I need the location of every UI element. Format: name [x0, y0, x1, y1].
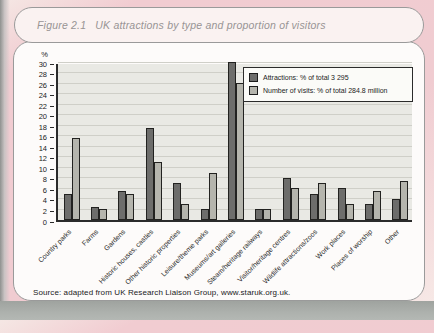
y-tick-mark	[50, 158, 54, 159]
visits-bar-2	[126, 194, 134, 220]
visits-bar-10	[346, 204, 354, 220]
page-bottom-edge	[0, 301, 434, 320]
bar-chart: % 024681012141618202224262830 Country pa…	[14, 42, 426, 302]
visits-bar-12	[400, 181, 408, 221]
y-tick-label: 28	[14, 70, 47, 79]
attractions-bar-4	[173, 183, 181, 220]
y-tick-label: 4	[14, 196, 47, 205]
visits-bar-11	[373, 191, 381, 220]
figure-number: Figure 2.1	[37, 19, 86, 31]
legend-item-attractions: Attractions: % of total 3 295	[249, 71, 407, 84]
visits-swatch-icon	[249, 86, 258, 95]
chart-legend: Attractions: % of total 3 295 Number of …	[243, 67, 413, 102]
figure-box: % 024681012141618202224262830 Country pa…	[13, 41, 425, 301]
y-tick-label: 8	[14, 175, 47, 184]
y-tick-mark	[50, 169, 54, 170]
attractions-bar-1	[91, 207, 99, 220]
y-tick-mark	[50, 148, 54, 149]
y-tick-label: 20	[14, 112, 47, 121]
visits-bar-3	[154, 162, 162, 220]
y-tick-label: 26	[14, 81, 47, 90]
legend-label: Number of visits: % of total 284.8 milli…	[263, 87, 388, 94]
x-axis-labels: Country parksFarmsGardensHistoric houses…	[14, 222, 426, 292]
y-tick-mark	[50, 211, 54, 212]
y-tick-mark	[50, 85, 54, 86]
y-tick-mark	[50, 137, 54, 138]
y-tick-label: 18	[14, 123, 47, 132]
attractions-bar-8	[283, 178, 291, 220]
y-tick-mark	[50, 190, 54, 191]
attractions-bar-10	[338, 188, 346, 220]
visits-bar-1	[99, 209, 107, 220]
source-credit: Source: adapted from UK Research Liaison…	[33, 288, 290, 297]
y-tick-label: 6	[14, 186, 47, 195]
y-tick-label: 2	[14, 207, 47, 216]
visits-bar-8	[291, 188, 299, 220]
y-tick-mark	[50, 64, 54, 65]
y-axis: 024681012141618202224262830	[14, 64, 54, 222]
y-tick-label: 16	[14, 133, 47, 142]
y-tick-mark	[50, 106, 54, 107]
figure-title: UK attractions by type and proportion of…	[95, 19, 325, 31]
attractions-bar-9	[310, 194, 318, 220]
y-tick-label: 22	[14, 102, 47, 111]
y-tick-mark	[50, 116, 54, 117]
page-edge-shadow	[0, 0, 10, 301]
attractions-bar-11	[365, 204, 373, 220]
attractions-bar-6	[228, 62, 236, 220]
legend-item-visits: Number of visits: % of total 284.8 milli…	[249, 84, 407, 97]
y-tick-mark	[50, 179, 54, 180]
attractions-swatch-icon	[249, 73, 258, 82]
attractions-bar-5	[201, 209, 209, 220]
attractions-bar-3	[146, 128, 154, 220]
y-tick-mark	[50, 200, 54, 201]
y-axis-title: %	[14, 50, 48, 59]
y-tick-label: 24	[14, 91, 47, 100]
y-tick-mark	[50, 95, 54, 96]
y-tick-label: 10	[14, 165, 47, 174]
visits-bar-9	[318, 183, 326, 220]
y-tick-label: 12	[14, 154, 47, 163]
y-tick-label: 30	[14, 60, 47, 69]
attractions-bar-12	[392, 199, 400, 220]
legend-label: Attractions: % of total 3 295	[263, 74, 349, 81]
visits-bar-7	[263, 209, 271, 220]
attractions-bar-7	[255, 209, 263, 220]
visits-bar-6	[236, 83, 244, 220]
attractions-bar-2	[118, 191, 126, 220]
attractions-bar-0	[64, 194, 72, 220]
y-tick-mark	[50, 127, 54, 128]
visits-bar-5	[209, 173, 217, 220]
figure-title-bar: Figure 2.1 UK attractions by type and pr…	[14, 7, 424, 43]
visits-bar-4	[181, 204, 189, 220]
y-tick-mark	[50, 74, 54, 75]
y-tick-label: 14	[14, 144, 47, 153]
visits-bar-0	[72, 138, 80, 220]
